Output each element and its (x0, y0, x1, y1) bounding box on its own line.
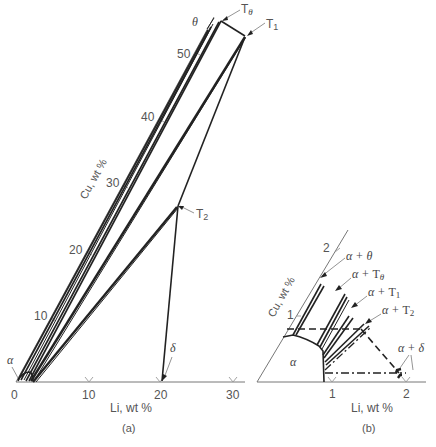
label-delta: δ (170, 341, 176, 355)
li-tick-mark-1 (328, 377, 336, 382)
label-alpha-t1: α + T1 (368, 285, 400, 300)
tie-lines-t1 (31, 37, 245, 381)
li-tick-mark-2 (402, 377, 410, 382)
li-tick-10: 10 (82, 388, 96, 402)
label-alpha: α (7, 353, 14, 367)
tie-lines-t-theta (26, 21, 221, 381)
li-tick-20: 20 (154, 388, 168, 402)
leader-alpha-delta-1 (400, 355, 409, 368)
t1-t2-edge (178, 37, 245, 206)
arrowhead-alpha-t-theta (335, 285, 342, 291)
tie-lines-b-theta (293, 284, 324, 335)
dashed-diagonal (361, 329, 399, 373)
label-t-theta: Tθ (241, 2, 253, 17)
delta-corner-mark-2 (398, 375, 402, 378)
li-axis-label-a: Li, wt % (110, 401, 152, 415)
dashdot-diagonal (325, 328, 370, 370)
leader-alpha-delta-2 (411, 355, 413, 370)
panel-b: 1 2 Li, wt % (b) 1 2 Cu, wt % α (257, 230, 426, 434)
caption-b: (b) (362, 422, 375, 434)
arrowhead-t1 (247, 30, 253, 36)
label-alpha-t-theta: α + Tθ (352, 267, 385, 282)
cu-tick-40: 40 (141, 110, 155, 124)
li-axis-label-b: Li, wt % (351, 401, 393, 415)
label-t1: T1 (266, 17, 278, 32)
tie-lines-b-t1 (323, 316, 353, 358)
li-tick-2-b: 2 (403, 387, 410, 401)
arrowhead-t-theta (222, 16, 228, 21)
tie-lines-theta (18, 24, 213, 380)
panel-a: 0 10 20 30 Li, wt % (a) 10 20 30 40 50 C… (7, 2, 278, 434)
arrowhead-alpha-t1 (351, 302, 358, 308)
li-tick-0: 0 (11, 388, 18, 402)
arrowhead-alpha-t2 (365, 318, 372, 324)
cu-tick-10: 10 (34, 309, 48, 323)
leader-delta (164, 357, 172, 378)
li-tick-30: 30 (226, 388, 240, 402)
cu-axis-a (16, 17, 214, 382)
label-alpha-b: α (290, 355, 297, 369)
cu-tick-2-b: 2 (323, 241, 330, 255)
label-alpha-theta: α + θ (346, 249, 372, 263)
cu-tick-1-b: 1 (287, 308, 294, 322)
label-alpha-delta: α + δ (398, 341, 424, 355)
label-t2: T2 (196, 207, 208, 222)
caption-a: (a) (122, 422, 135, 434)
li-tick-1-b: 1 (329, 387, 336, 401)
leader-alpha (12, 367, 18, 378)
al-cu-li-phase-diagram: 0 10 20 30 Li, wt % (a) 10 20 30 40 50 C… (0, 0, 436, 447)
cu-tick-30: 30 (106, 176, 120, 190)
label-theta: θ (192, 15, 198, 29)
t-theta-t1-edge (221, 21, 245, 36)
li-ticks-a (85, 377, 237, 382)
cu-tick-20: 20 (69, 243, 83, 257)
label-alpha-t2: α + T2 (382, 303, 414, 318)
cu-tick-50: 50 (177, 47, 191, 61)
cu-axis-label-a: Cu, wt % (77, 156, 109, 201)
